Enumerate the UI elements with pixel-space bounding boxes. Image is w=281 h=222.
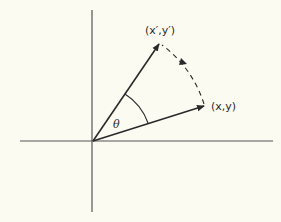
rotation-arrow-icon [179,58,187,65]
vector-original [93,106,204,141]
rotation-arc-dashed [162,45,204,104]
label-original-point: (x,y) [211,100,236,113]
label-rotated-point: (x′,y′) [145,24,175,37]
label-theta: θ [113,118,120,131]
vector-rotated [93,44,159,141]
rotation-diagram: (x′,y′) (x,y) θ [0,0,281,222]
angle-arc [125,94,148,123]
